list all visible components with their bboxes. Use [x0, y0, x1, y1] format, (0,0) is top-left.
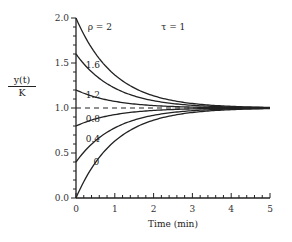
curve-label: 0.4	[86, 134, 101, 144]
y-axis-label: y(t) K	[8, 74, 36, 99]
y-tick-label: 0.5	[55, 148, 70, 158]
curve-label: 1.6	[86, 60, 101, 70]
chart: 0123450.00.51.01.52.01.61.20.80.40ρ = 2τ…	[0, 0, 292, 242]
series-line-rho-0-8	[76, 108, 270, 126]
x-tick-label: 3	[190, 204, 196, 214]
y-tick-label: 1.5	[55, 58, 70, 68]
y-axis-label-denominator: K	[8, 87, 36, 99]
curve-label: 0	[93, 157, 99, 167]
x-tick-label: 1	[112, 204, 118, 214]
curve-label: 1.2	[86, 90, 100, 100]
annotation: τ = 1	[161, 22, 185, 32]
y-tick-label: 1.0	[55, 103, 70, 113]
x-tick-label: 0	[73, 204, 79, 214]
x-tick-label: 2	[151, 204, 157, 214]
annotation: ρ = 2	[88, 22, 112, 32]
y-tick-label: 2.0	[55, 13, 70, 23]
y-axis-label-numerator: y(t)	[8, 74, 36, 87]
x-tick-label: 4	[228, 204, 234, 214]
x-tick-label: 5	[267, 204, 273, 214]
y-tick-label: 0.0	[55, 193, 70, 203]
x-axis-title: Time (min)	[148, 219, 198, 229]
series-line-rho-1-2	[76, 90, 270, 108]
curve-label: 0.8	[86, 114, 101, 124]
plot-area: 0123450.00.51.01.52.01.61.20.80.40ρ = 2τ…	[55, 13, 273, 229]
series-line-rho-0	[76, 109, 270, 198]
